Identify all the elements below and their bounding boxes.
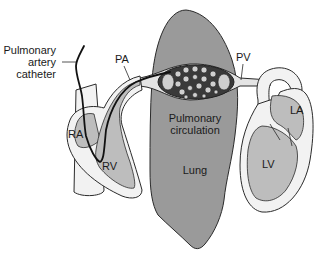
lv-label: LV (262, 158, 275, 170)
ra-label: RA (68, 128, 83, 140)
pulm-label-line1: Pulmonary (160, 112, 230, 124)
pa-label: PA (115, 53, 129, 65)
rv-label: RV (102, 160, 117, 172)
pulmonary-circulation-label: Pulmonary circulation (160, 112, 230, 136)
pv-leader (241, 64, 243, 80)
catheter-label-line2: artery (3, 56, 56, 68)
catheter-label-line3: catheter (3, 68, 56, 80)
la-label: LA (290, 104, 303, 116)
lung-label: Lung (175, 164, 215, 176)
pulmonary-catheter-diagram: Pulmonary artery catheter PA PV RA RV LA… (0, 0, 324, 256)
catheter-label: Pulmonary artery catheter (3, 44, 56, 80)
pv-label: PV (236, 51, 251, 63)
catheter-label-line1: Pulmonary (3, 44, 56, 56)
pulm-label-line2: circulation (160, 124, 230, 136)
pa-leader (124, 66, 130, 80)
